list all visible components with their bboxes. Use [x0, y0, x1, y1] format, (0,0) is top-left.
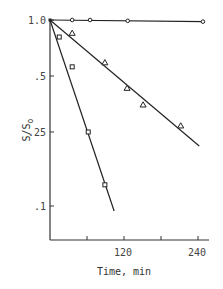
triangle-marker: [69, 30, 75, 35]
y-tick-label: .1: [34, 201, 46, 212]
y-tick-label: 1.0: [28, 15, 46, 26]
x-tick-label: 240: [188, 247, 206, 258]
square-marker: [70, 65, 74, 69]
triangle-marker: [124, 85, 130, 90]
fit-lines: [50, 20, 204, 211]
y-label-main: S/S: [21, 123, 32, 141]
triangle-marker: [178, 123, 184, 128]
triangle-marker: [102, 60, 108, 65]
axes: [50, 19, 209, 240]
triangle-marker: [140, 102, 146, 107]
circle-marker: [70, 18, 74, 22]
circle-marker: [88, 18, 92, 22]
chart: 1.0 .5 .25 .1 120 240 Time, min S/So: [0, 0, 223, 289]
circle-marker: [126, 19, 130, 23]
y-tick-label: .5: [34, 71, 46, 82]
square-marker: [57, 35, 61, 39]
circle-marker: [201, 20, 205, 24]
data-markers: [49, 18, 205, 187]
y-label-subscript: o: [26, 118, 35, 123]
square-marker: [86, 130, 90, 134]
x-tick-label: 120: [114, 247, 132, 258]
fit-line-triangles: [50, 20, 199, 146]
square-marker: [103, 183, 107, 187]
origin-marker: [49, 19, 52, 22]
x-axis-label: Time, min: [97, 266, 151, 277]
